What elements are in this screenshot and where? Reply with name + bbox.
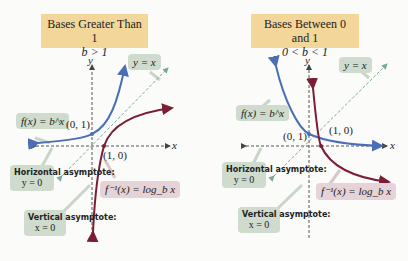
point-log-label: (1, 0) bbox=[329, 124, 353, 136]
point-exp-label: (0, 1) bbox=[283, 130, 307, 142]
identity-line-label: y = x bbox=[339, 57, 372, 73]
y-axis-label: y bbox=[305, 54, 310, 66]
exp-function-label: f(x) = b^x bbox=[236, 105, 289, 121]
point-exp-label: (0, 1) bbox=[66, 118, 90, 130]
exp-function-label: f(x) = b^x bbox=[16, 113, 69, 129]
panel-bases-between-0-and-1: Bases Between 0 and 1 0 < b < 1 y x y = … bbox=[204, 0, 408, 261]
horizontal-asymptote-label: Horizontal asymptote: y = 0 bbox=[222, 162, 266, 188]
identity-line-label: y = x bbox=[128, 54, 161, 70]
x-axis-label: x bbox=[172, 139, 177, 151]
panel-bases-greater-than-1: Bases Greater Than 1 b > 1 y x y = x f(x… bbox=[0, 0, 204, 261]
x-axis-label: x bbox=[390, 139, 395, 151]
y-axis-label: y bbox=[88, 54, 93, 66]
log-function-label: f⁻¹(x) = log_b x bbox=[316, 183, 396, 200]
vertical-asymptote-label: Vertical asymptote: x = 0 bbox=[238, 207, 280, 233]
vertical-asymptote-label: Vertical asymptote: x = 0 bbox=[24, 210, 66, 236]
horizontal-asymptote-label: Horizontal asymptote: y = 0 bbox=[10, 165, 54, 191]
log-function-label: f⁻¹(x) = log_b x bbox=[100, 181, 180, 198]
point-log-label: (1, 0) bbox=[103, 149, 127, 161]
